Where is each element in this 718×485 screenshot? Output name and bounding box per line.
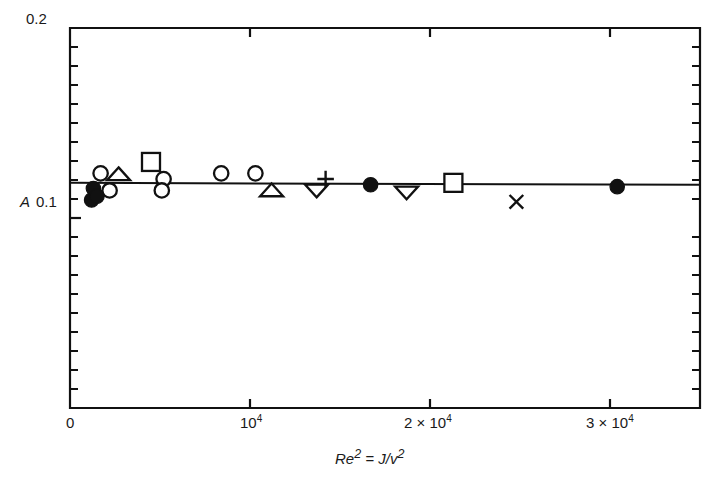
marker-circle-filled — [363, 178, 377, 192]
figure-background — [0, 0, 718, 485]
y-tick-label-0-1: 0.1 — [36, 193, 57, 210]
y-axis-title: A — [20, 193, 30, 210]
x-tick-label-3e4: 3 × 104 — [586, 414, 634, 431]
marker-circle-filled — [610, 179, 624, 193]
x-tick-label-3e4-exp: 4 — [628, 413, 634, 424]
marker-circle-open — [248, 166, 262, 180]
x-axis-title: Re2 = J/v2 — [335, 447, 404, 467]
chart-figure — [0, 0, 718, 485]
x-tick-label-0-text: 0 — [66, 414, 74, 431]
x-tick-label-1e4-mantissa: 10 — [240, 414, 257, 431]
x-tick-label-1e4: 104 — [240, 414, 262, 431]
marker-circle-open — [155, 183, 169, 197]
x-axis-title-re: Re — [335, 450, 354, 467]
x-tick-label-2e4: 2 × 104 — [404, 414, 452, 431]
y-tick-label-0-2: 0.2 — [26, 10, 47, 27]
x-axis-title-nu-exp: 2 — [397, 447, 404, 461]
marker-circle-open — [93, 166, 107, 180]
x-tick-label-3e4-mantissa: 3 × 10 — [586, 414, 628, 431]
x-tick-label-0: 0 — [66, 414, 74, 431]
x-axis-title-eq: = — [361, 450, 378, 467]
x-tick-label-2e4-mantissa: 2 × 10 — [404, 414, 446, 431]
marker-square-open — [444, 174, 462, 192]
x-tick-label-2e4-exp: 4 — [446, 413, 452, 424]
marker-circle-open — [214, 166, 228, 180]
x-tick-label-1e4-exp: 4 — [257, 413, 263, 424]
marker-square-open — [142, 153, 160, 171]
x-axis-title-j: J — [378, 450, 386, 467]
marker-circle-filled — [90, 189, 104, 203]
